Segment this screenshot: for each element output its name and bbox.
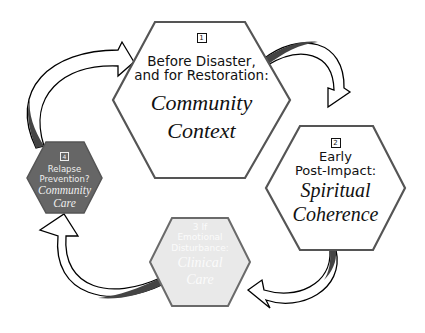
arrow-stage3-to-stage4 xyxy=(40,214,164,298)
stage4-label: 4 Relapse Prevention? Community Care xyxy=(27,145,102,210)
stage1-title-line1: Community xyxy=(113,89,290,117)
stage3-heading-line3: Disturbance: xyxy=(150,243,250,254)
stage4-number-badge: 4 xyxy=(60,152,69,161)
stage3-title-line2: Care xyxy=(150,271,250,288)
stage2-label: 2 Early Post-Impact: Spiritual Coherence xyxy=(266,131,405,226)
stage1-heading-line2: and for Restoration: xyxy=(113,68,290,83)
stage1-title-line2: Context xyxy=(113,117,290,145)
stage3-title-line1: Clinical xyxy=(150,254,250,271)
stage3-label: 3 If Emotional Disturbance: Clinical Car… xyxy=(150,222,250,288)
stage2-heading-line2: Post-Impact: xyxy=(266,164,405,178)
stage1-number-badge: 1 xyxy=(197,33,207,43)
stage1-label: 1 Before Disaster, and for Restoration: … xyxy=(113,26,290,145)
stage4-title-line2: Care xyxy=(27,197,102,210)
stage4-heading-line1: Relapse xyxy=(27,164,102,174)
stage2-title-line2: Coherence xyxy=(266,202,405,226)
arrow-stage2-to-stage3 xyxy=(248,250,337,308)
stage2-heading-line1: Early xyxy=(266,150,405,164)
stage2-number-badge: 2 xyxy=(331,138,341,148)
stage4-heading-line2: Prevention? xyxy=(27,174,102,184)
stage3-number-badge: 3 xyxy=(193,222,199,232)
stage1-heading-line1: Before Disaster, xyxy=(113,54,290,69)
stage2-title-line1: Spiritual xyxy=(266,178,405,202)
stage3-heading-line1: 3 If xyxy=(150,222,250,232)
stage4-title-line1: Community xyxy=(27,184,102,197)
disaster-response-cycle-diagram: 1 Before Disaster, and for Restoration: … xyxy=(0,0,425,333)
stage3-heading-line2: Emotional xyxy=(150,232,250,243)
